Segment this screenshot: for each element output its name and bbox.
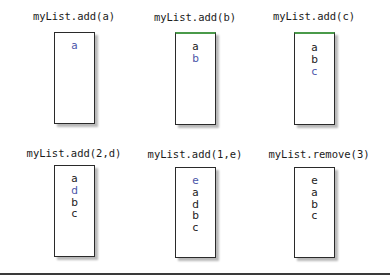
- list-item: c: [176, 222, 215, 234]
- list-item: c: [55, 208, 94, 220]
- step-3-title: myList.add(c): [249, 10, 379, 23]
- step-2-list-box: a b: [175, 32, 216, 125]
- step-2-title: myList.add(b): [130, 11, 260, 24]
- step-1-title: myList.add(a): [9, 10, 139, 23]
- list-item: d: [55, 185, 94, 197]
- list-item: a: [55, 40, 94, 52]
- step-3-list-box: a b c: [294, 32, 335, 125]
- step-5-list-box: e a d b c: [175, 167, 216, 258]
- list-item: a: [295, 187, 334, 199]
- step-4-list-box: a d b c: [54, 165, 95, 257]
- list-item: b: [295, 54, 334, 66]
- list-item: c: [295, 210, 334, 222]
- list-item: b: [176, 53, 215, 65]
- list-item: a: [176, 187, 215, 199]
- step-6-list-box: e a b c: [294, 167, 335, 258]
- list-item: c: [295, 66, 334, 78]
- step-4-title: myList.add(2,d): [9, 147, 139, 160]
- step-6-title: myList.remove(3): [254, 148, 384, 161]
- step-1-list-box: a: [54, 32, 95, 124]
- bottom-divider: [0, 273, 390, 275]
- step-5-title: myList.add(1,e): [130, 148, 260, 161]
